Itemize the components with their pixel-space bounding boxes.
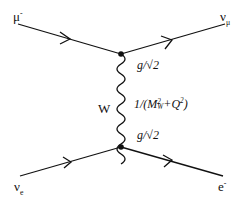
muon-symbol: μ	[13, 9, 20, 24]
electron-arrow-icon	[163, 155, 172, 167]
propagator-suffix: )	[184, 97, 188, 111]
propagator-middle: +Q	[163, 97, 180, 111]
electron-charge: -	[224, 179, 227, 188]
propagator-prefix: 1/(M	[134, 97, 157, 111]
coupling-bottom: g/√2	[137, 129, 159, 141]
muon-neutrino-flavor: μ	[226, 18, 230, 27]
muon-charge: -	[20, 9, 23, 18]
top-vertex	[118, 51, 124, 57]
muon-neutrino-line	[121, 24, 225, 54]
propagator-term: 1/(M2W+Q2)	[134, 98, 188, 111]
feynman-diagram	[0, 0, 242, 205]
electron-line	[121, 147, 223, 176]
coupling-top: g/√2	[137, 59, 159, 71]
bottom-vertex	[118, 144, 124, 150]
label-electron: e-	[218, 180, 226, 193]
electron-neutrino-flavor: e	[20, 188, 23, 197]
label-muon: μ-	[13, 10, 23, 23]
label-w-boson: W	[98, 102, 110, 115]
label-muon-neutrino: νμ	[220, 10, 230, 26]
label-electron-neutrino: νe	[14, 180, 23, 196]
